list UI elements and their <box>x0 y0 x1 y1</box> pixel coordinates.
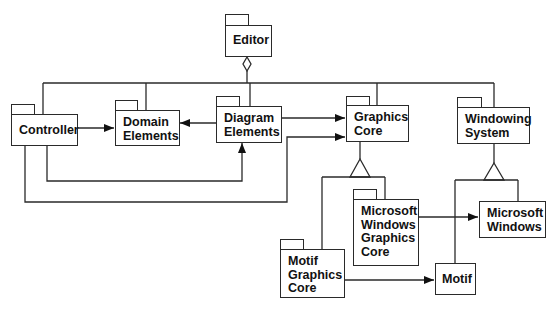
package-diagram: Editor Controller Domain Elements Diagra… <box>0 0 559 309</box>
package-ms-windows-graphics-core[interactable]: Microsoft Windows Graphics Core <box>353 199 419 266</box>
package-domain-elements[interactable]: Domain Elements <box>115 110 180 146</box>
package-graphics-core[interactable]: Graphics Core <box>346 105 409 142</box>
package-controller[interactable]: Controller <box>11 114 78 146</box>
package-motif[interactable]: Motif <box>435 263 476 295</box>
package-windowing-system[interactable]: Windowing System <box>457 107 530 144</box>
package-ms-windows[interactable]: Microsoft Windows <box>479 201 546 238</box>
generalization-triangle-icon <box>350 159 370 177</box>
package-editor[interactable]: Editor <box>225 25 272 57</box>
package-diagram-elements[interactable]: Diagram Elements <box>216 106 282 143</box>
generalization-triangle-icon <box>484 163 504 180</box>
package-motif-graphics-core[interactable]: Motif Graphics Core <box>280 249 345 298</box>
aggregation-diamond-icon <box>243 57 251 71</box>
